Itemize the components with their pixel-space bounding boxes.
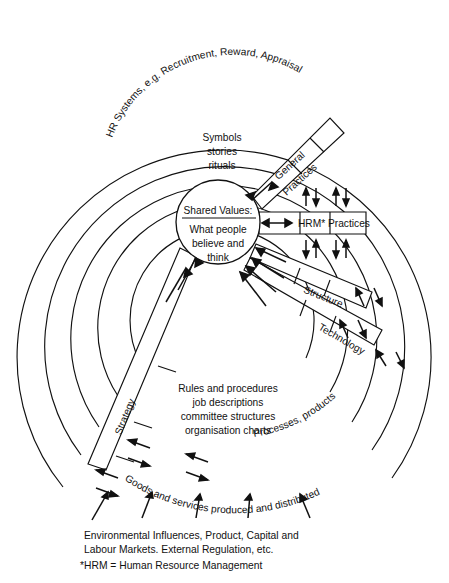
concentric-culture-diagram: HR Systems, e.g. Recruitment, Reward, Ap… (0, 0, 449, 583)
footer-line-2: Labour Markets. External Regulation, etc… (84, 544, 273, 555)
rules-line2: job descriptions (192, 397, 264, 408)
rules-line1: Rules and procedures (178, 383, 278, 394)
label-hr-systems: HR Systems, e.g. Recruitment, Reward, Ap… (104, 46, 305, 139)
rules-text-group: Rules and procedures job descriptions co… (178, 383, 278, 436)
footer-line-1: Environmental Influences, Product, Capit… (84, 530, 299, 541)
symbols-line2: stories (207, 146, 237, 157)
label-hrm-practices: HRM* Practices (298, 218, 370, 229)
shared-values-line2: believe and (192, 238, 244, 249)
symbols-text-group: Symbols stories rituals (202, 132, 241, 171)
label-goods-services: Goods and services produced and distribu… (123, 472, 321, 515)
footer-group: Environmental Influences, Product, Capit… (80, 530, 299, 571)
shared-values-line3: think (207, 252, 229, 263)
rules-line4: organisation charts (185, 425, 271, 436)
shared-values-heading: Shared Values: (184, 205, 253, 216)
rules-line3: committee structures (181, 411, 276, 422)
symbols-line3: rituals (208, 160, 235, 171)
shared-values-line1: What people (189, 224, 247, 235)
symbols-line1: Symbols (202, 132, 241, 143)
corridor-strategy (88, 248, 196, 470)
footer-line-3: *HRM = Human Resource Management (80, 560, 262, 571)
arrow-goods-head (240, 272, 249, 281)
diagram-canvas: HR Systems, e.g. Recruitment, Reward, Ap… (0, 0, 449, 583)
